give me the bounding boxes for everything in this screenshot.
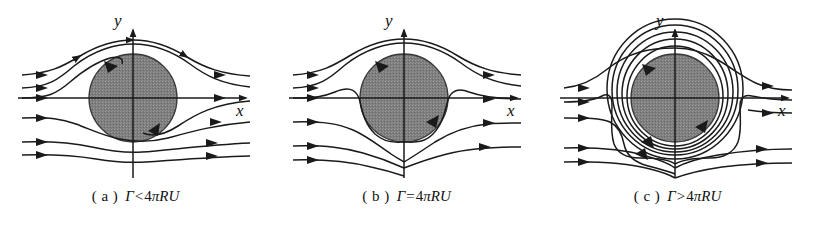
caption-a-radius: R (159, 188, 168, 204)
caption-b-radius: R (431, 188, 440, 204)
panel-b: y x ( b )Γ=4πRU (271, 0, 542, 232)
figure-flow-past-rotating-cylinder: y x ( a )Γ<4πRU (0, 0, 813, 232)
caption-c-gamma: Γ (667, 188, 676, 204)
axis-x-label-b: x (506, 101, 515, 120)
caption-c-expression: Γ>4πRU (667, 188, 721, 204)
caption-a-coefficient: 4 (144, 188, 152, 204)
caption-c-velocity: U (711, 188, 722, 204)
caption-b-expression: Γ=4πRU (397, 188, 451, 204)
caption-a: ( a )Γ<4πRU (0, 186, 271, 206)
caption-a-expression: Γ<4πRU (125, 188, 179, 204)
caption-b-label: ( b ) (362, 188, 390, 204)
caption-c-operator: > (677, 188, 685, 204)
caption-b: ( b )Γ=4πRU (271, 186, 542, 206)
panel-a: y x ( a )Γ<4πRU (0, 0, 271, 232)
caption-c-coefficient: 4 (686, 188, 694, 204)
caption-b-pi: π (423, 188, 431, 204)
axis-x-label-c: x (777, 101, 786, 120)
caption-b-gamma: Γ (397, 188, 406, 204)
axis-x-label-a: x (235, 101, 244, 120)
caption-c-label: ( c ) (634, 188, 661, 204)
axis-y-label-c: y (654, 11, 664, 30)
axis-y-label-a: y (112, 11, 122, 30)
caption-a-gamma: Γ (125, 188, 134, 204)
caption-c: ( c )Γ>4πRU (542, 186, 813, 206)
panel-a-diagram: y x (0, 0, 271, 190)
caption-b-velocity: U (440, 188, 451, 204)
caption-c-radius: R (701, 188, 710, 204)
panel-b-diagram: y x (271, 0, 542, 190)
caption-a-label: ( a ) (92, 188, 119, 204)
caption-b-operator: = (406, 188, 414, 204)
axis-y-label-b: y (383, 11, 393, 30)
panel-c: y x ( c )Γ>4πRU (542, 0, 813, 232)
panel-c-diagram: y x (542, 0, 813, 190)
caption-a-velocity: U (169, 188, 180, 204)
caption-a-operator: < (135, 188, 143, 204)
